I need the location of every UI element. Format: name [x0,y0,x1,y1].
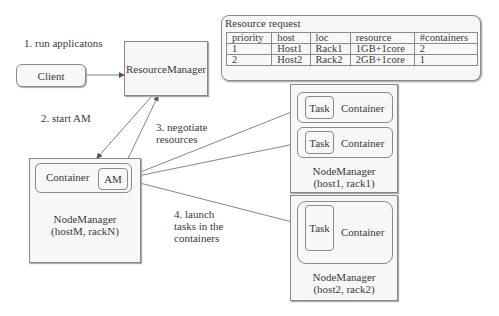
cell-loc: Rack1 [310,44,350,55]
container-label: Container [46,171,89,183]
cell-resource: 2GB+1core [350,55,414,66]
resource-manager-label: ResourceManager [126,63,206,75]
cell-containers: 2 [414,44,477,55]
column-header: loc [310,33,350,44]
task-box: Task [305,131,334,154]
am-label: AM [104,173,122,185]
task-label: Task [309,102,330,114]
node-manager-host1: Task Container Task Container NodeManage… [290,84,398,193]
node-manager-name: NodeManager [291,271,397,283]
cell-loc: Rack2 [310,55,350,66]
node-manager-hostm: Container AM NodeManager (hostM, rackN) [29,158,141,263]
arrow-launch-task-2 [128,142,304,178]
step-launch-line1: 4. launch [174,208,214,220]
task-label: Task [309,222,330,234]
arrow-launch-task-1 [128,107,304,177]
step-start-am: 2. start AM [41,112,91,124]
am-container: Container AM [35,163,132,193]
step-launch-line2: tasks in the [174,220,224,232]
step-launch-line3: containers [174,232,219,244]
node-manager-location: (host2, rack2) [291,283,397,295]
column-header: resource [350,33,414,44]
resource-request-table: priority host loc resource #containers 1… [226,32,478,66]
container-label: Container [341,137,384,149]
am-box: AM [98,168,128,190]
column-header: #containers [414,33,477,44]
column-header: host [272,33,310,44]
task-label: Task [309,137,330,149]
step-run-applications: 1. run applicatons [24,37,103,49]
container-3: Task Container [297,201,393,264]
cell-containers: 1 [414,55,477,66]
client-box: Client [16,64,86,87]
container-label: Container [341,226,384,238]
cell-priority: 2 [227,55,272,66]
cell-priority: 1 [227,44,272,55]
client-label: Client [38,70,65,82]
resource-request-title: Resource request [225,17,300,29]
column-header: priority [227,33,272,44]
arrow-negotiate [124,96,158,167]
table-row: 2 Host2 Rack2 2GB+1core 1 [227,55,478,66]
node-manager-name: NodeManager [291,165,397,177]
resource-manager-box: ResourceManager [124,41,208,96]
cell-resource: 1GB+1core [350,44,414,55]
node-manager-location: (hostM, rackN) [30,225,140,237]
step-negotiate-line1: 3. negotiate [156,121,207,133]
node-manager-location: (host1, rack1) [291,177,397,189]
resource-request-panel: Resource request priority host loc resou… [221,15,481,81]
arrow-launch-task-3 [128,180,304,225]
container-1: Task Container [297,92,393,123]
cell-host: Host2 [272,55,310,66]
node-manager-host2: Task Container NodeManager (host2, rack2… [290,195,398,301]
step-negotiate-line2: resources [156,133,198,145]
arrow-start-am [97,96,152,158]
table-row: 1 Host1 Rack1 1GB+1core 2 [227,44,478,55]
container-2: Task Container [297,127,393,158]
task-box: Task [305,96,334,119]
task-box: Task [305,205,334,251]
table-header-row: priority host loc resource #containers [227,33,478,44]
container-label: Container [341,102,384,114]
node-manager-name: NodeManager [30,213,140,225]
cell-host: Host1 [272,44,310,55]
